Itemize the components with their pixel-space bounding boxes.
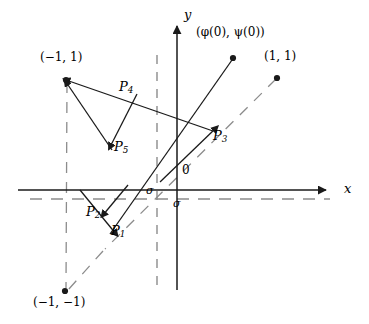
- vector-p4-arrow[interactable]: [66, 80, 213, 131]
- p1-subscript: 1: [120, 229, 126, 239]
- point-label-neg-one-one: (−1, 1): [40, 51, 82, 63]
- p5-subscript: 5: [123, 145, 129, 155]
- p2-subscript: 2: [95, 210, 101, 220]
- origin-label: 0: [182, 164, 190, 176]
- dashed-from-neg-one-one: [66, 82, 67, 288]
- dot-one-one: [274, 75, 280, 81]
- x-axis-label: x: [344, 182, 351, 195]
- sigma-label-upper: σ: [146, 185, 154, 196]
- p1-base: P: [111, 223, 120, 238]
- p4-label: P4: [119, 80, 133, 95]
- dot-neg-one-neg-one: [62, 288, 68, 294]
- vector-p5-to-neg-one-one-arrow[interactable]: [66, 82, 112, 150]
- phase-plane-figure: x y 0 σ σ (φ(0), ψ(0)) (1, 1) (−1, 1) (−…: [0, 0, 369, 324]
- p3-base: P: [213, 128, 222, 143]
- point-label-one-one: (1, 1): [264, 50, 296, 62]
- p4-subscript: 4: [128, 85, 134, 95]
- p2-label: P2: [86, 205, 100, 220]
- dashed-to-neg-one-neg-one: [68, 251, 103, 290]
- solid-trajectories: [85, 60, 236, 248]
- dashed-from-one-one: [105, 79, 276, 249]
- p3-subscript: 3: [222, 134, 228, 144]
- coordinate-axes: [18, 26, 326, 290]
- figure-canvas: [0, 0, 369, 324]
- dot-phi-psi-zero: [230, 55, 236, 61]
- dashed-trajectories: [66, 79, 276, 290]
- p2-base: P: [86, 204, 95, 219]
- point-label-phi-psi-zero: (φ(0), ψ(0)): [196, 26, 265, 38]
- point-label-neg-one-neg-one: (−1, −1): [33, 296, 85, 308]
- p1-label: P1: [111, 224, 125, 239]
- sigma-label-lower: σ: [173, 198, 181, 209]
- p3-label: P3: [213, 129, 227, 144]
- p5-label: P5: [114, 140, 128, 155]
- y-axis-label: y: [184, 8, 191, 21]
- p5-base: P: [114, 139, 123, 154]
- p4-base: P: [119, 79, 128, 94]
- dot-neg-one-one: [63, 77, 69, 83]
- sigma-guide-lines: [30, 55, 330, 292]
- point-markers: [62, 55, 280, 294]
